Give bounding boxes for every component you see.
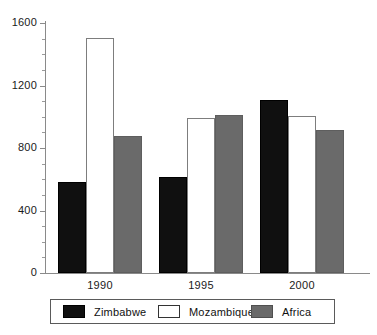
y-tick-label: 0 bbox=[31, 267, 37, 278]
y-minor-tick bbox=[42, 54, 45, 55]
bar-zimbabwe-2000 bbox=[260, 100, 288, 273]
y-tick-label-wrap: 0 bbox=[0, 267, 37, 278]
legend-label: Zimbabwe bbox=[94, 306, 146, 318]
y-tick-label: 800 bbox=[18, 142, 37, 153]
y-tick-label-wrap: 1200 bbox=[0, 80, 37, 91]
chart-legend: ZimbabweMozambiqueAfrica bbox=[50, 299, 335, 324]
y-tick-1200 bbox=[40, 86, 45, 87]
y-tick-label: 1600 bbox=[12, 17, 37, 28]
y-tick-label: 400 bbox=[18, 205, 37, 216]
legend-item-mozambique: Mozambique bbox=[158, 300, 254, 323]
y-tick-label-wrap: 1600 bbox=[0, 17, 37, 28]
legend-label: Mozambique bbox=[189, 306, 254, 318]
y-minor-tick bbox=[42, 70, 45, 71]
y-minor-tick bbox=[42, 39, 45, 40]
y-minor-tick bbox=[42, 195, 45, 196]
bar-zimbabwe-1995 bbox=[159, 177, 187, 273]
y-tick-0 bbox=[40, 273, 45, 274]
y-minor-tick bbox=[42, 164, 45, 165]
legend-swatch-zimbabwe bbox=[63, 305, 85, 318]
y-tick-label: 1200 bbox=[12, 80, 37, 91]
bar-mozambique-1995 bbox=[187, 118, 215, 273]
x-axis-label-1995: 1995 bbox=[159, 279, 243, 291]
x-axis-label-2000: 2000 bbox=[260, 279, 344, 291]
bar-mozambique-1990 bbox=[86, 38, 114, 273]
bar-mozambique-2000 bbox=[288, 116, 316, 273]
y-minor-tick bbox=[42, 226, 45, 227]
y-minor-tick bbox=[42, 101, 45, 102]
legend-swatch-africa bbox=[251, 305, 273, 318]
x-axis-line bbox=[45, 273, 370, 274]
legend-item-africa: Africa bbox=[251, 300, 311, 323]
y-tick-800 bbox=[40, 148, 45, 149]
x-axis-label-1990: 1990 bbox=[58, 279, 142, 291]
y-minor-tick bbox=[42, 179, 45, 180]
bar-zimbabwe-1990 bbox=[58, 182, 86, 273]
y-tick-label-wrap: 800 bbox=[0, 142, 37, 153]
legend-swatch-mozambique bbox=[158, 305, 180, 318]
bar-chart: 040080012001600 199019952000 ZimbabweMoz… bbox=[0, 0, 377, 335]
y-minor-tick bbox=[42, 242, 45, 243]
y-minor-tick bbox=[42, 257, 45, 258]
y-minor-tick bbox=[42, 117, 45, 118]
plot-area bbox=[46, 23, 368, 273]
y-minor-tick bbox=[42, 132, 45, 133]
y-tick-label-wrap: 400 bbox=[0, 205, 37, 216]
legend-label: Africa bbox=[282, 306, 311, 318]
y-tick-400 bbox=[40, 211, 45, 212]
bar-africa-1995 bbox=[215, 115, 243, 273]
legend-item-zimbabwe: Zimbabwe bbox=[63, 300, 146, 323]
y-tick-1600 bbox=[40, 23, 45, 24]
bar-africa-1990 bbox=[114, 136, 142, 273]
bar-africa-2000 bbox=[316, 130, 344, 273]
